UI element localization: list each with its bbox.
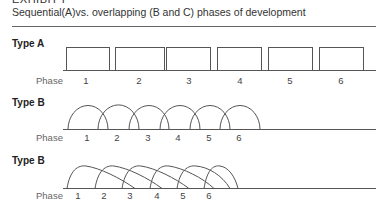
type-b-arc-1 [68,106,108,130]
type-b-arc-2 [98,105,139,130]
phase-diagrams [0,0,382,206]
type-c-curve-2 [95,166,162,189]
type-b-arc-5 [190,106,230,130]
type-b-arc-6 [220,106,260,130]
type-a-box-2 [116,48,165,71]
type-a-box-4 [218,48,262,71]
type-c-curve-3 [122,166,189,189]
type-a-box-1 [67,48,110,71]
type-a-box-6 [320,48,364,71]
type-a-box-5 [269,48,313,71]
type-a-box-3 [167,48,211,71]
